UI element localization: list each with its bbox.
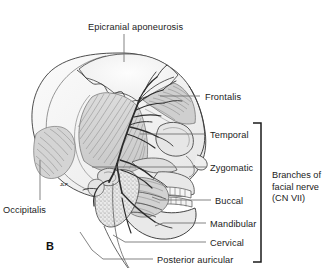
label-zygomatic: Zygomatic (210, 163, 253, 174)
branches-line-1: Branches of (272, 170, 321, 182)
artist-mark: JLP (60, 182, 68, 187)
mastoid-process (88, 179, 104, 196)
branches-line-2: facial nerve (272, 182, 321, 194)
label-posterior-auricular: Posterior auricular (157, 255, 233, 266)
panel-letter-b: B (46, 240, 54, 252)
label-mandibular: Mandibular (210, 219, 256, 230)
branches-line-3: (CN VII) (272, 193, 321, 205)
facial-nerve-bracket (253, 123, 261, 262)
facial-nerve-branches-diagram: JLP (0, 0, 334, 273)
label-cervical: Cervical (210, 238, 244, 249)
label-epicranial-aponeurosis: Epicranial aponeurosis (88, 22, 183, 33)
label-frontalis: Frontalis (205, 92, 241, 103)
skull-illustration: JLP (32, 53, 207, 268)
leader-posterior-auricular-2 (80, 232, 103, 259)
label-temporal: Temporal (210, 130, 249, 141)
label-branches-of-facial-nerve: Branches of facial nerve (CN VII) (272, 170, 321, 205)
label-occipitalis: Occipitalis (3, 205, 46, 216)
label-buccal: Buccal (215, 196, 243, 207)
